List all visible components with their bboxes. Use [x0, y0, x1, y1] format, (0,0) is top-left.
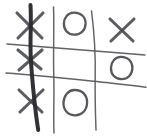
- cell-mark-middle-right[interactable]: [111, 57, 132, 79]
- tic-tac-toe-board: [0, 0, 147, 139]
- o-mark-ellipse: [64, 13, 86, 35]
- o-mark-ellipse: [111, 57, 132, 79]
- cell-mark-top-center[interactable]: [64, 13, 86, 35]
- o-mark-ellipse: [63, 90, 87, 115]
- cell-mark-bottom-left[interactable]: [19, 90, 43, 112]
- grid-vertical-line-1: [54, 7, 55, 133]
- grid-vertical-line-2: [92, 11, 97, 130]
- cell-empty-bottom-right[interactable]: [103, 92, 139, 126]
- cell-mark-bottom-center[interactable]: [63, 90, 87, 115]
- cell-empty-middle-center[interactable]: [58, 50, 91, 80]
- cell-mark-top-right[interactable]: [110, 19, 134, 41]
- board-canvas: [0, 0, 147, 139]
